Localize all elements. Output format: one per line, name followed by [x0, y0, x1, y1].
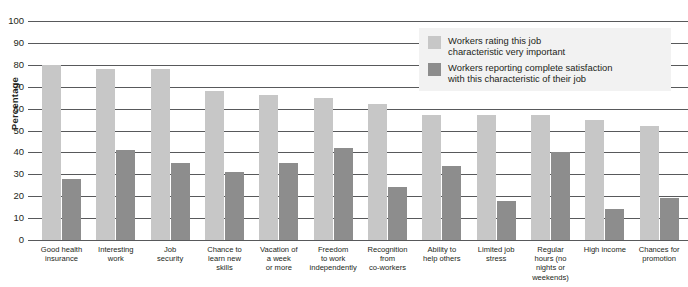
- category-label-line: or more: [252, 263, 306, 272]
- y-axis-tick-label: 0: [0, 235, 24, 245]
- legend-label-line: Workers reporting complete satisfaction: [448, 62, 612, 73]
- category-label-line: Freedom: [306, 245, 360, 254]
- category-label-line: stress: [469, 254, 523, 263]
- bar-satisfied: [62, 179, 81, 240]
- legend-item: Workers rating this jobcharacteristic ve…: [428, 35, 663, 57]
- x-axis-category-label: Recognitionfromco-workers: [361, 245, 415, 273]
- y-axis-tick: [28, 109, 36, 110]
- bar-important: [477, 115, 496, 240]
- category-label-line: Good health: [35, 245, 89, 254]
- bar-satisfied: [551, 152, 570, 240]
- category-label-line: a week: [252, 254, 306, 263]
- bar-group: [42, 21, 81, 240]
- bar-satisfied: [116, 150, 135, 240]
- bar-group: [151, 21, 190, 240]
- legend-label-line: Workers rating this job: [448, 35, 565, 46]
- y-axis-tick-label: 50: [0, 126, 24, 136]
- bar-important: [640, 126, 659, 240]
- bar-satisfied: [605, 209, 624, 240]
- category-label-line: learn new: [198, 254, 252, 263]
- legend-item: Workers reporting complete satisfactionw…: [428, 62, 663, 84]
- x-axis-category-label: Freedomto workindependently: [306, 245, 360, 273]
- bar-important: [96, 69, 115, 240]
- legend-label-line: characteristic very important: [448, 46, 565, 57]
- x-axis-category-label: Ability tohelp others: [415, 245, 469, 263]
- y-axis-tick: [28, 87, 36, 88]
- category-label-line: Chances for: [632, 245, 686, 254]
- bar-important: [259, 95, 278, 240]
- bar-important: [314, 98, 333, 240]
- category-label-line: Job: [143, 245, 197, 254]
- y-axis-tick-label: 90: [0, 38, 24, 48]
- bar-satisfied: [225, 172, 244, 240]
- legend-label-line: with this characteristic of their job: [448, 73, 612, 84]
- y-axis-tick: [28, 174, 36, 175]
- bar-important: [368, 104, 387, 240]
- bar-satisfied: [660, 198, 679, 240]
- category-label-line: from: [361, 254, 415, 263]
- y-axis-tick: [28, 43, 36, 44]
- category-label-line: skills: [198, 263, 252, 272]
- legend-label: Workers rating this jobcharacteristic ve…: [448, 35, 565, 57]
- y-axis-tick: [28, 240, 36, 241]
- bar-group: [205, 21, 244, 240]
- x-axis-category-label: Limited jobstress: [469, 245, 523, 263]
- y-axis-tick-label: 60: [0, 104, 24, 114]
- bar-important: [151, 69, 170, 240]
- category-label-line: independently: [306, 263, 360, 272]
- bar-group: [259, 21, 298, 240]
- x-axis-category-label: Regularhours (nonights orweekends): [524, 245, 578, 282]
- x-axis-category-label: Chance tolearn newskills: [198, 245, 252, 273]
- x-axis-category-label: Jobsecurity: [143, 245, 197, 263]
- category-label-line: hours (no: [524, 254, 578, 263]
- bar-satisfied: [497, 201, 516, 240]
- category-label-line: insurance: [35, 254, 89, 263]
- x-axis-category-label: High income: [578, 245, 632, 254]
- category-label-line: Chance to: [198, 245, 252, 254]
- y-axis-tick-label: 30: [0, 169, 24, 179]
- y-axis-tick: [28, 218, 36, 219]
- category-label-line: Vacation of: [252, 245, 306, 254]
- category-label-line: nights or: [524, 263, 578, 272]
- legend-label: Workers reporting complete satisfactionw…: [448, 62, 612, 84]
- category-label-line: help others: [415, 254, 469, 263]
- bar-satisfied: [171, 163, 190, 240]
- bar-chart: Percentage 1009080706050403020100 Good h…: [0, 0, 688, 287]
- y-axis-tick-label: 10: [0, 213, 24, 223]
- bar-important: [531, 115, 550, 240]
- y-axis-tick-label: 70: [0, 82, 24, 92]
- category-label-line: to work: [306, 254, 360, 263]
- y-axis-tick-label: 20: [0, 191, 24, 201]
- x-axis-category-label: Interestingwork: [89, 245, 143, 263]
- y-axis-tick-label: 80: [0, 60, 24, 70]
- y-axis-tick: [28, 152, 36, 153]
- y-axis-tick: [28, 65, 36, 66]
- x-axis-category-label: Good healthinsurance: [35, 245, 89, 263]
- y-axis-tick-label: 40: [0, 147, 24, 157]
- bar-important: [42, 65, 61, 240]
- category-label-line: Limited job: [469, 245, 523, 254]
- y-axis-tick-label: 100: [0, 16, 24, 26]
- y-axis-tick: [28, 21, 36, 22]
- legend-swatch-dark: [428, 63, 441, 76]
- bar-group: [368, 21, 407, 240]
- category-label-line: co-workers: [361, 263, 415, 272]
- bar-satisfied: [334, 148, 353, 240]
- category-label-line: security: [143, 254, 197, 263]
- bar-group: [96, 21, 135, 240]
- category-label-line: work: [89, 254, 143, 263]
- axis-baseline: [36, 240, 688, 241]
- category-label-line: Regular: [524, 245, 578, 254]
- bar-satisfied: [388, 187, 407, 240]
- category-label-line: High income: [578, 245, 632, 254]
- category-label-line: Ability to: [415, 245, 469, 254]
- category-label-line: promotion: [632, 254, 686, 263]
- bar-important: [205, 91, 224, 240]
- category-label-line: Interesting: [89, 245, 143, 254]
- legend: Workers rating this jobcharacteristic ve…: [419, 28, 671, 91]
- category-label-line: Recognition: [361, 245, 415, 254]
- y-axis-tick: [28, 196, 36, 197]
- bar-satisfied: [279, 163, 298, 240]
- legend-swatch-light: [428, 36, 441, 49]
- x-axis-category-label: Vacation ofa weekor more: [252, 245, 306, 273]
